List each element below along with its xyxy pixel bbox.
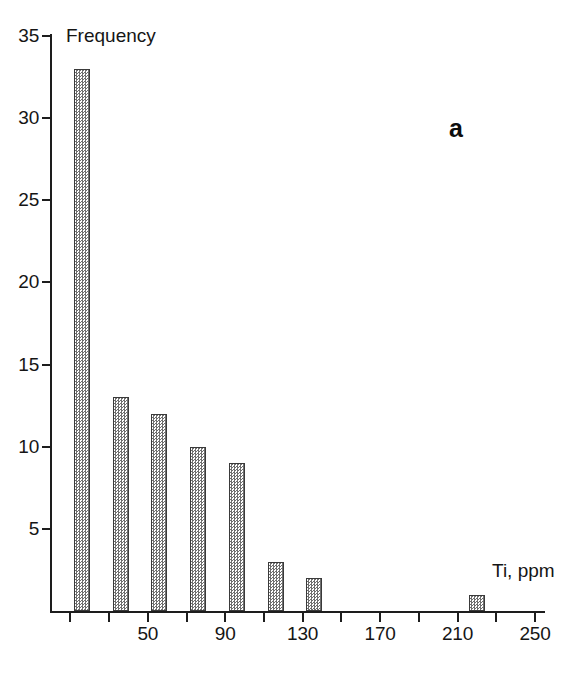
y-axis-tick xyxy=(42,364,50,366)
x-axis-tick xyxy=(263,613,265,622)
y-axis-tick-label: 5 xyxy=(29,519,39,538)
x-axis-tick-label: 90 xyxy=(215,624,236,643)
x-axis-tick xyxy=(340,613,342,622)
y-axis-tick-label: 15 xyxy=(18,355,39,374)
x-axis-tick-label: 210 xyxy=(442,624,473,643)
x-axis-line xyxy=(50,611,545,613)
y-axis-title: Frequency xyxy=(66,26,156,45)
x-axis-tick xyxy=(495,613,497,622)
x-axis-tick-label: 50 xyxy=(137,624,158,643)
y-axis-tick xyxy=(42,281,50,283)
y-axis-tick-label: 35 xyxy=(18,26,39,45)
y-axis-tick xyxy=(42,199,50,201)
y-axis-tick xyxy=(42,35,50,37)
y-axis-tick-label: 20 xyxy=(18,272,39,291)
y-axis-tick xyxy=(42,446,50,448)
x-axis-title: Ti, ppm xyxy=(492,561,555,580)
histogram-bar xyxy=(306,578,322,611)
histogram-bar xyxy=(268,562,284,611)
y-axis-tick xyxy=(42,528,50,530)
x-axis-tick xyxy=(457,613,459,622)
x-axis-tick xyxy=(418,613,420,622)
y-axis-tick-label: 30 xyxy=(18,108,39,127)
histogram-bar xyxy=(229,463,245,611)
y-axis-line xyxy=(50,34,52,613)
y-axis-tick-label: 10 xyxy=(18,437,39,456)
y-axis-tick-label: 25 xyxy=(18,190,39,209)
x-axis-tick-label: 250 xyxy=(519,624,550,643)
x-axis-tick xyxy=(108,613,110,622)
x-axis-tick xyxy=(534,613,536,622)
histogram-bar xyxy=(469,595,485,611)
x-axis-tick xyxy=(379,613,381,622)
x-axis-tick xyxy=(147,613,149,622)
panel-label: a xyxy=(449,116,463,141)
x-axis-tick-label: 170 xyxy=(365,624,396,643)
x-axis-tick xyxy=(186,613,188,622)
chart-figure: Frequency Ti, ppm a 5101520253035 509013… xyxy=(0,0,575,674)
x-axis-tick xyxy=(224,613,226,622)
x-axis-tick xyxy=(302,613,304,622)
y-axis-tick xyxy=(42,117,50,119)
histogram-bar xyxy=(113,397,129,611)
x-axis-tick-label: 130 xyxy=(287,624,318,643)
histogram-bar xyxy=(190,447,206,611)
histogram-bar xyxy=(74,69,90,611)
histogram-bar xyxy=(151,414,167,611)
x-axis-tick xyxy=(69,613,71,622)
